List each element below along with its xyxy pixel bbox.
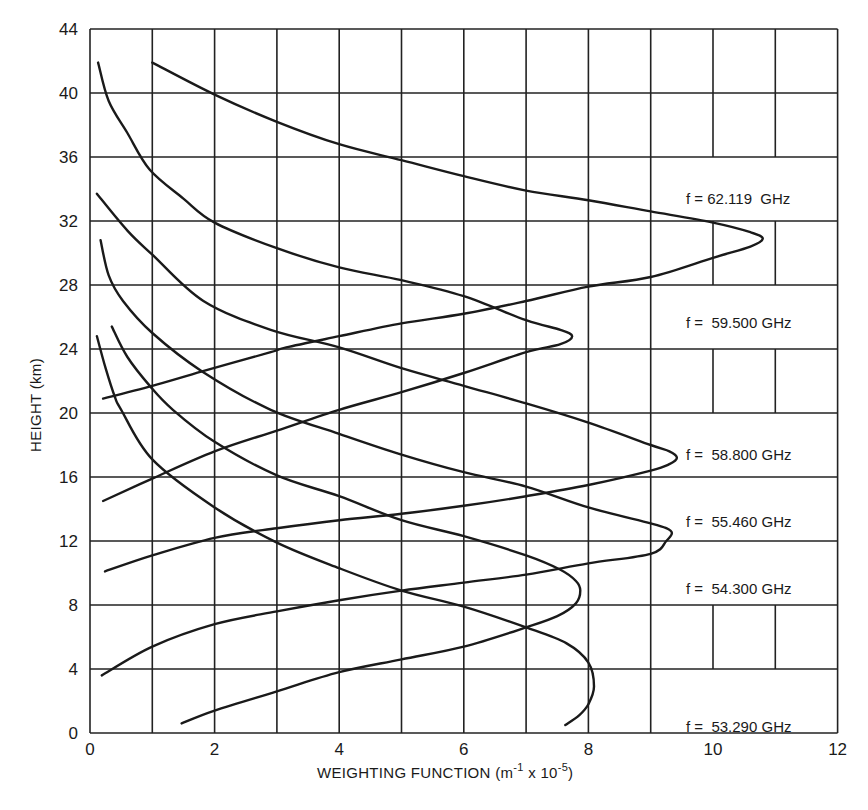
x-axis-title: WEIGHTING FUNCTION (m-1 x 10-5) — [317, 761, 573, 781]
x-tick-label: 12 — [828, 740, 847, 759]
y-tick-label: 4 — [69, 660, 78, 679]
frequency-label: f = 53.290 GHz — [686, 718, 791, 735]
x-tick-label: 0 — [85, 740, 94, 759]
y-tick-label: 16 — [59, 468, 78, 487]
y-tick-label: 28 — [59, 276, 78, 295]
x-tick-label: 10 — [704, 740, 723, 759]
frequency-label: f = 58.800 GHz — [686, 446, 791, 463]
curve-55-46-ghz — [101, 240, 672, 675]
x-axis-title-mid: x 10 — [524, 764, 558, 781]
x-axis-title-main: WEIGHTING FUNCTION (m — [317, 764, 513, 781]
y-tick-label: 40 — [59, 84, 78, 103]
x-axis-title-end: ) — [568, 764, 573, 781]
y-axis-ticks: 048121620242832364044 — [59, 20, 78, 743]
y-tick-label: 32 — [59, 212, 78, 231]
y-tick-label: 12 — [59, 532, 78, 551]
weighting-curves — [97, 63, 763, 725]
y-tick-label: 8 — [69, 596, 78, 615]
y-tick-label: 20 — [59, 404, 78, 423]
y-tick-label: 0 — [69, 724, 78, 743]
curve-53-29-ghz — [97, 336, 594, 725]
y-tick-label: 36 — [59, 148, 78, 167]
y-axis-title: HEIGHT (km) — [27, 358, 44, 452]
x-axis-title-sup1: -1 — [513, 761, 523, 773]
x-tick-label: 2 — [210, 740, 219, 759]
x-axis-ticks: 024681012 — [85, 740, 847, 759]
curve-54-3-ghz — [112, 327, 581, 724]
x-tick-label: 4 — [334, 740, 343, 759]
frequency-label: f = 55.460 GHz — [686, 513, 791, 530]
weighting-function-chart: 048121620242832364044 024681012 f = 62.1… — [0, 0, 868, 810]
y-tick-label: 44 — [59, 20, 78, 39]
frequency-label: f = 54.300 GHz — [686, 580, 791, 597]
frequency-label: f = 59.500 GHz — [686, 314, 791, 331]
x-tick-label: 6 — [459, 740, 468, 759]
curve-59-5-ghz — [98, 63, 572, 501]
x-tick-label: 8 — [584, 740, 593, 759]
x-axis-title-sup2: -5 — [558, 761, 568, 773]
frequency-label: f = 62.119 GHz — [686, 190, 790, 207]
y-tick-label: 24 — [59, 340, 78, 359]
